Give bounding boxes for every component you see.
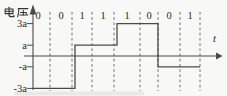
- y-tick-label: -a: [1, 61, 27, 72]
- time-axis-label: t: [213, 33, 227, 44]
- y-tick-label: a: [1, 40, 27, 51]
- bit-label: 0: [143, 10, 155, 21]
- bit-label: 1: [184, 10, 196, 21]
- x-axis-arrowhead: [216, 53, 223, 60]
- y-tick-label: -3a: [1, 83, 27, 94]
- bit-label: 0: [32, 10, 44, 21]
- y-tick-label: 3a: [1, 18, 27, 29]
- bit-label: 1: [97, 10, 109, 21]
- bit-label: 1: [76, 10, 88, 21]
- scan-artifact: [14, 92, 144, 96]
- waveform-figure: 电压 t 3aa-a-3a00111001: [0, 0, 227, 96]
- bit-label: 0: [163, 10, 175, 21]
- bit-label: 0: [55, 10, 67, 21]
- bit-label: 1: [121, 10, 133, 21]
